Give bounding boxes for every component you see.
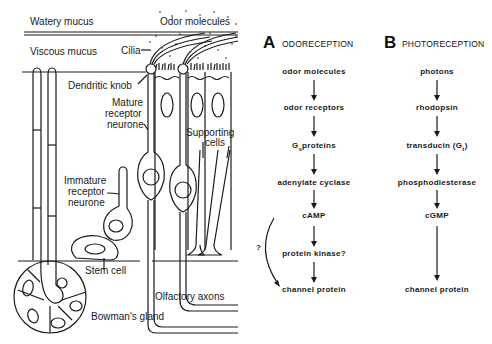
step-protein-kinase: protein kinase? (282, 249, 346, 258)
label-immature-receptor-line1: Immature (64, 175, 107, 186)
step-camp: cAMP (302, 211, 326, 220)
step-odor-receptors: odor receptors (284, 103, 345, 112)
panel-b-letter: B (384, 33, 396, 52)
panel-a-title: ODORECEPTION (282, 39, 353, 49)
label-immature-receptor-line3: neurone (68, 197, 105, 208)
step-channel-protein-a: channel protein (282, 285, 346, 294)
immature-receptor-neurone (104, 167, 133, 240)
label-watery-mucus: Watery mucus (30, 16, 94, 27)
label-mature-receptor-line3: neurone (107, 119, 144, 130)
bowmans-gland-duct (33, 68, 56, 265)
step-gs-proteins: Gsproteins (292, 141, 336, 152)
label-olfactory-axons: Olfactory axons (155, 291, 224, 302)
label-stem-cell: Stem cell (85, 265, 126, 276)
label-odor-molecules: Odor molecules (160, 16, 230, 27)
cilia (150, 33, 238, 64)
label-mature-receptor-line1: Mature (112, 97, 144, 108)
supporting-cells (155, 63, 231, 255)
label-bowmans-gland: Bowman's gland (91, 311, 164, 322)
label-dendritic-knob: Dendritic knob (68, 80, 132, 91)
step-adenylate-cyclase: adenylate cyclase (277, 178, 350, 187)
panel-a-odoreception: A ODORECEPTION odor molecules odor recep… (256, 33, 353, 294)
step-transducin: transducin (Gt) (406, 141, 467, 152)
olfaction-figure: Watery mucus Odor molecules Viscous mucu… (0, 0, 492, 344)
step-phosphodiesterase: phosphodiesterase (398, 178, 477, 187)
label-immature-receptor-line2: receptor (68, 186, 105, 197)
step-photons: photons (420, 67, 454, 76)
step-rhodopsin: rhodopsin (416, 103, 458, 112)
bowmans-gland (14, 260, 86, 333)
panel-a-letter: A (263, 33, 275, 52)
label-mature-receptor-line2: receptor (105, 108, 142, 119)
label-supporting-cells-line2: cells (205, 137, 225, 148)
bypass-arrow (265, 218, 278, 284)
label-cilia: Cilia (121, 45, 141, 56)
step-channel-protein-b: channel protein (405, 285, 469, 294)
step-cgmp: cGMP (425, 211, 449, 220)
olfactory-epithelium-diagram: Watery mucus Odor molecules Viscous mucu… (14, 10, 238, 333)
mature-receptor-neurone-2 (170, 64, 238, 311)
bypass-question-mark: ? (256, 243, 261, 252)
panel-b-title: PHOTORECEPTION (402, 39, 484, 49)
step-odor-molecules: odor molecules (282, 67, 346, 76)
label-viscous-mucus: Viscous mucus (30, 46, 97, 57)
panel-b-photoreception: B PHOTORECEPTION photons rhodopsin trans… (384, 33, 484, 294)
